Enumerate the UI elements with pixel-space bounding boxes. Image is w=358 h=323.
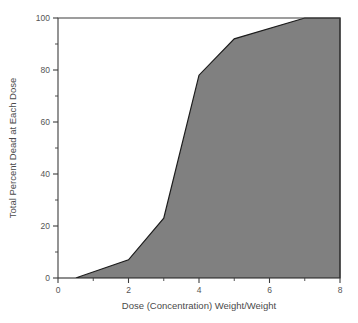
series-area-total-percent-dead <box>58 18 340 278</box>
y-axis-tick-labels: 020406080100 <box>36 13 50 283</box>
dose-response-area-chart: 020406080100 02468 Dose (Concentration) … <box>0 0 358 323</box>
tick-label: 100 <box>36 13 50 23</box>
chart-container: 020406080100 02468 Dose (Concentration) … <box>0 0 358 323</box>
tick-label: 60 <box>41 117 51 127</box>
x-axis-tick-labels: 02468 <box>56 285 343 295</box>
tick-label: 4 <box>197 285 202 295</box>
tick-label: 80 <box>41 65 51 75</box>
x-axis-title: Dose (Concentration) Weight/Weight <box>122 300 277 311</box>
tick-label: 0 <box>56 285 61 295</box>
y-axis-ticks <box>53 18 58 278</box>
tick-label: 40 <box>41 169 51 179</box>
plot-area <box>58 18 340 278</box>
tick-label: 2 <box>126 285 131 295</box>
y-axis-title: Total Percent Dead at Each Dose <box>7 78 18 218</box>
tick-label: 20 <box>41 221 51 231</box>
tick-label: 0 <box>45 273 50 283</box>
tick-label: 6 <box>267 285 272 295</box>
tick-label: 8 <box>338 285 343 295</box>
x-axis-ticks <box>58 278 340 283</box>
